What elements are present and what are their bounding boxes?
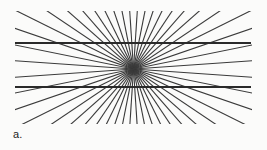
hering-illusion-figure: a. (0, 0, 267, 150)
panel-label: a. (13, 129, 23, 140)
illusion-canvas (0, 0, 267, 150)
